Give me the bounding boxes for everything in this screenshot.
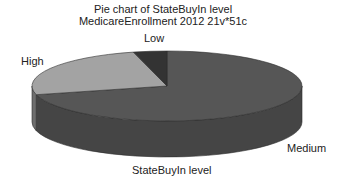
pie-chart: Pie chart of StateBuyIn level MedicareEn… <box>0 0 341 177</box>
slice-label-low: Low <box>144 33 164 44</box>
x-axis-label: StateBuyIn level <box>132 165 212 176</box>
slice-label-high: High <box>21 56 44 67</box>
slice-label-medium: Medium <box>287 143 326 154</box>
